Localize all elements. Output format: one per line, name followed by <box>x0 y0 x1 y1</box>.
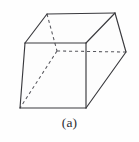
front-left-face <box>20 43 86 108</box>
figure-container: (a) <box>0 0 139 142</box>
prism-faces <box>20 13 126 108</box>
figure-caption: (a) <box>0 116 139 131</box>
